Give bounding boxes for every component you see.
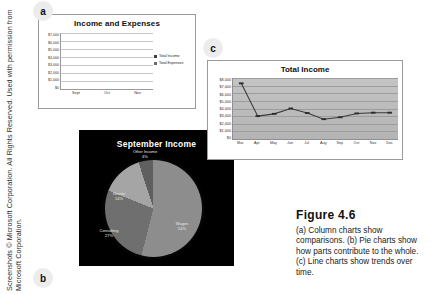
copyright-credit: Screenshots © Microsoft Corporation. All… <box>0 0 28 295</box>
x-tick: Apr <box>249 141 266 149</box>
y-tick: $4,000 <box>48 56 59 60</box>
legend-item-expenses: Total Expenses <box>154 61 192 65</box>
legend-swatch-icon <box>154 62 157 65</box>
figure-page: Screenshots © Microsoft Corporation. All… <box>0 0 432 295</box>
column-chart: Income and Expenses $7,000 $6,000 $5,000… <box>38 14 196 109</box>
column-chart-y-axis: $7,000 $6,000 $5,000 $4,000 $3,000 $2,00… <box>40 33 59 90</box>
legend-label: Total Income <box>159 54 179 58</box>
column-chart-canvas <box>60 33 153 90</box>
x-tick: Aug <box>315 141 332 149</box>
y-tick: $6,000 <box>48 41 59 45</box>
x-tick: May <box>265 141 282 149</box>
legend-swatch-icon <box>154 55 157 58</box>
line-chart-plot-area: $8,000 $7,000 $6,000 $5,000 $4,000 $3,00… <box>208 74 402 152</box>
x-tick: Oct <box>348 141 365 149</box>
pie-label-value: 4% <box>115 154 175 159</box>
pie-label-grants: Grants 14% <box>101 191 137 201</box>
line-chart-markers <box>233 78 398 139</box>
column-chart-title: Income and Expenses <box>39 19 195 28</box>
column-chart-legend: Total Income Total Expenses <box>154 54 192 65</box>
column-chart-plot-area: $7,000 $6,000 $5,000 $4,000 $3,000 $2,00… <box>39 28 195 100</box>
pie-label-value: 14% <box>101 196 137 201</box>
x-tick: Jul <box>298 141 315 149</box>
y-tick: $8,000 <box>219 78 231 82</box>
legend-item-income: Total Income <box>154 54 192 58</box>
y-tick: $0 <box>55 86 59 90</box>
y-tick: $1,000 <box>48 78 59 82</box>
pie-label-value: 54% <box>164 226 200 231</box>
pie-label-value: 27% <box>87 233 131 238</box>
panel-label-b: b <box>33 268 53 288</box>
y-tick: $6,000 <box>219 93 231 97</box>
x-tick: Nov <box>134 91 141 99</box>
line-chart-canvas <box>232 78 398 140</box>
x-tick: Sept <box>72 91 80 99</box>
y-tick: $1,000 <box>219 129 231 133</box>
legend-label: Total Expenses <box>159 61 183 65</box>
x-tick: Dec <box>381 141 398 149</box>
column-chart-x-axis: Sept Oct Nov <box>60 91 153 99</box>
panel-label-c: c <box>203 38 223 58</box>
pie-chart-canvas <box>105 160 202 257</box>
figure-caption: Figure 4.6 (a) Column charts show compar… <box>296 208 424 278</box>
y-tick: $5,000 <box>48 48 59 52</box>
pie-label-consulting: Consulting 27% <box>87 228 131 238</box>
panel-label-a: a <box>33 1 53 21</box>
line-chart-title: Total Income <box>208 65 402 74</box>
pie-label-other-income: Other Income 4% <box>115 149 175 159</box>
figure-caption-title: Figure 4.6 <box>296 208 424 222</box>
y-tick: $4,000 <box>219 107 231 111</box>
x-tick: Oct <box>104 91 110 99</box>
pie-chart-plot-area: Other Income 4% Grants 14% Consulting 27… <box>79 149 234 261</box>
y-tick: $0 <box>227 136 231 140</box>
line-chart-x-axis: Mar Apr May Jun Jul Aug Sep Oct Nov Dec <box>232 141 398 149</box>
y-tick: $7,000 <box>219 85 231 89</box>
y-tick: $2,000 <box>48 71 59 75</box>
y-tick: $7,000 <box>48 33 59 37</box>
x-tick: Sep <box>332 141 349 149</box>
y-tick: $3,000 <box>48 63 59 67</box>
line-chart-y-axis: $8,000 $7,000 $6,000 $5,000 $4,000 $3,00… <box>209 78 231 140</box>
x-tick: Jun <box>282 141 299 149</box>
column-chart-bar-groups <box>61 33 153 89</box>
y-tick: $2,000 <box>219 122 231 126</box>
pie-label-wages: Wages 54% <box>164 221 200 231</box>
y-tick: $5,000 <box>219 100 231 104</box>
y-tick: $3,000 <box>219 114 231 118</box>
figure-caption-body: (a) Column charts show comparisons. (b) … <box>296 226 424 278</box>
x-tick: Mar <box>232 141 249 149</box>
x-tick: Nov <box>365 141 382 149</box>
line-chart: Total Income $8,000 $7,000 $6,000 $5,000… <box>207 60 403 160</box>
